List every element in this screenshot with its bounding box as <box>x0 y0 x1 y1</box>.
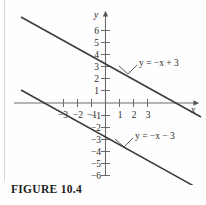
figure-container: y x −3 −2 −1 1 2 3 6 5 4 3 2 1 −1 −2 −3 … <box>0 0 206 205</box>
xtick-label-neg2: −2 <box>73 110 83 120</box>
ytick-label-6: 6 <box>94 26 99 36</box>
ytick-label-neg6: −6 <box>91 171 101 181</box>
ytick-label-neg1: −1 <box>91 111 101 121</box>
xtick-label-3: 3 <box>146 110 151 120</box>
ytick-label-neg5: −5 <box>91 159 101 169</box>
coordinate-plot: y x −3 −2 −1 1 2 3 6 5 4 3 2 1 −1 −2 −3 … <box>0 0 206 185</box>
ytick-label-2: 2 <box>94 74 99 84</box>
y-axis-label: y <box>93 10 99 20</box>
ytick-label-neg4: −4 <box>91 147 101 157</box>
equation-label-upper: y = −x + 3 <box>139 58 179 68</box>
figure-caption: FIGURE 10.4 <box>11 183 82 195</box>
xtick-label-2: 2 <box>132 110 137 120</box>
ytick-label-3: 3 <box>94 62 99 72</box>
ytick-label-5: 5 <box>94 38 99 48</box>
ytick-label-neg3: −3 <box>91 135 101 145</box>
leader-line-lower <box>115 138 133 147</box>
xtick-label-1: 1 <box>118 110 123 120</box>
ytick-label-1: 1 <box>94 86 99 96</box>
equation-label-lower: y = −x − 3 <box>135 131 175 141</box>
